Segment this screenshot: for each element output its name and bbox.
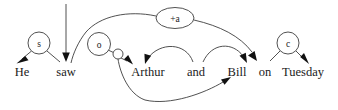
- node-s[interactable]: s: [28, 32, 50, 54]
- arrowhead: [17, 56, 29, 64]
- arrowhead: [240, 53, 248, 63]
- edge-path: [270, 51, 280, 61]
- node-s-label: s: [37, 39, 41, 49]
- edge-c-to-on: [270, 51, 280, 61]
- word-on: on: [259, 65, 272, 79]
- arrowhead: [62, 53, 70, 63]
- edge-and-to-arthur: [144, 46, 193, 64]
- arrowhead: [300, 53, 309, 64]
- word-and: and: [187, 65, 206, 79]
- word-arthur: Arthur: [131, 65, 165, 79]
- node-o[interactable]: o: [88, 33, 111, 56]
- edge-path: [194, 20, 252, 52]
- edge-path: [203, 46, 243, 62]
- edge-path: [47, 51, 60, 62]
- word-tuesday: Tuesday: [282, 65, 325, 79]
- node-shape: [113, 49, 123, 59]
- node-c-label: c: [286, 39, 290, 49]
- edge-path: [148, 46, 193, 62]
- word-he: He: [15, 65, 30, 79]
- edge-c-to-tuesday: [296, 51, 309, 64]
- word-bill: Bill: [228, 65, 247, 79]
- node-c[interactable]: c: [277, 32, 299, 54]
- edge-and-to-bill: [203, 46, 247, 63]
- edge-s-to-he: [17, 51, 32, 64]
- node-junction[interactable]: [113, 49, 123, 59]
- arrowhead: [124, 55, 133, 65]
- node-plus-a[interactable]: +a: [156, 8, 194, 29]
- edge-plusa-to-on: [194, 20, 257, 61]
- edge-top-to-saw: [62, 4, 70, 62]
- arrowhead: [248, 51, 257, 61]
- node-o-label: o: [97, 40, 102, 50]
- node-plus-a-label: +a: [170, 14, 180, 24]
- word-saw: saw: [56, 65, 75, 79]
- diagram-canvas: s o +a c He saw Arthur and Bill on Tuesd…: [0, 0, 338, 110]
- edge-s-to-saw: [47, 51, 60, 62]
- dependency-graph: s o +a c He saw Arthur and Bill on Tuesd…: [0, 0, 338, 110]
